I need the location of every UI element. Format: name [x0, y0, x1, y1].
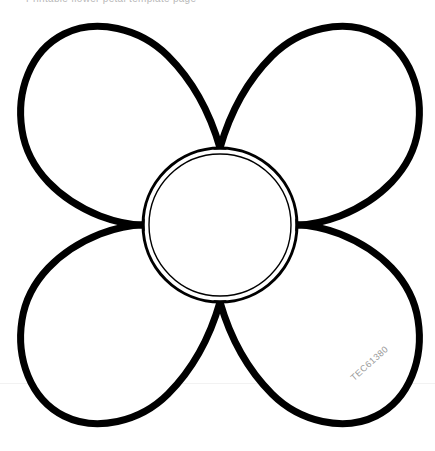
watermark: TEC61380 — [352, 356, 398, 402]
flower-center-disc — [145, 150, 296, 301]
page-root: Printable flower petal template page TEC… — [0, 0, 435, 451]
